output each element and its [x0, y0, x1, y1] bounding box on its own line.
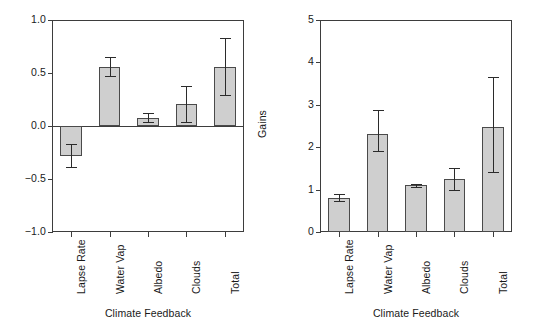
error-bar-cap-upper [488, 77, 499, 78]
error-bar-stem [148, 113, 149, 121]
error-bar-cap-lower [105, 76, 116, 77]
y-axis-tick-mark [316, 105, 321, 106]
error-bar-cap-lower [181, 122, 192, 123]
y-axis-tick-mark [48, 232, 53, 233]
error-bar-cap-upper [334, 194, 345, 195]
x-axis-title: Climate Feedback [320, 307, 512, 319]
x-axis-tick-mark [378, 232, 379, 237]
x-axis-category-label: Clouds [190, 261, 202, 294]
y-axis-tick-label: 4 [272, 55, 314, 67]
y-axis-tick-label: 0.5 [4, 66, 46, 78]
x-axis-category-label: Albedo [152, 261, 164, 294]
error-bar-cap-lower [143, 122, 154, 123]
x-axis-category-label: Total [229, 271, 241, 294]
error-bar-cap-lower [449, 190, 460, 191]
panel-feedback-factor: 1.00.50.0−0.5−1.0Feedback FactorLapse Ra… [0, 0, 268, 329]
y-axis-tick-label: 5 [272, 13, 314, 25]
error-bar-cap-lower [334, 201, 345, 202]
y-axis-tick-mark [48, 20, 53, 21]
error-bar-stem [71, 144, 72, 167]
x-axis-tick-mark [493, 232, 494, 237]
y-axis-tick-mark [316, 232, 321, 233]
x-axis-tick-mark [110, 232, 111, 237]
y-axis-tick-label: 0.0 [4, 119, 46, 131]
x-axis-category-label: Total [497, 271, 509, 294]
y-axis-tick-label: −1.0 [4, 225, 46, 237]
error-bar-cap-upper [373, 110, 384, 111]
error-bar-cap-lower [220, 95, 231, 96]
bar [405, 185, 427, 232]
x-axis-category-label: Albedo [420, 261, 432, 294]
y-axis-tick-label: −0.5 [4, 172, 46, 184]
error-bar-stem [378, 110, 379, 150]
y-axis-tick-label: 1.0 [4, 13, 46, 25]
x-axis-category-label: Lapse Rate [75, 239, 87, 294]
error-bar-cap-upper [220, 38, 231, 39]
x-axis-tick-mark [454, 232, 455, 237]
y-axis-tick-mark [48, 73, 53, 74]
panel-gains: 543210GainsLapse RateWater VapAlbedoClou… [268, 0, 536, 329]
error-bar-cap-upper [449, 168, 460, 169]
error-bar-cap-lower [66, 167, 77, 168]
error-bar-cap-upper [66, 144, 77, 145]
y-axis-tick-label: 0 [272, 225, 314, 237]
error-bar-cap-lower [411, 187, 422, 188]
error-bar-cap-lower [488, 172, 499, 173]
y-axis-tick-mark [48, 179, 53, 180]
x-axis-category-label: Water Vap [114, 245, 126, 294]
y-axis-tick-label: 2 [272, 140, 314, 152]
error-bar-stem [493, 77, 494, 172]
y-axis-title: Gains [256, 64, 268, 184]
error-bar-cap-lower [373, 151, 384, 152]
error-bar-cap-upper [143, 113, 154, 114]
x-axis-tick-mark [71, 232, 72, 237]
x-axis-tick-mark [416, 232, 417, 237]
y-axis-tick-label: 1 [272, 183, 314, 195]
x-axis-title: Climate Feedback [52, 307, 244, 319]
y-axis-tick-mark [316, 147, 321, 148]
error-bar-cap-upper [105, 57, 116, 58]
x-axis-tick-mark [148, 232, 149, 237]
error-bar-stem [339, 194, 340, 201]
bar [328, 198, 350, 232]
error-bar-stem [186, 86, 187, 122]
y-axis-tick-mark [316, 190, 321, 191]
y-axis-tick-mark [316, 20, 321, 21]
x-axis-category-label: Water Vap [382, 245, 394, 294]
x-axis-category-label: Clouds [458, 261, 470, 294]
x-axis-tick-mark [186, 232, 187, 237]
error-bar-stem [225, 38, 226, 95]
x-axis-category-label: Lapse Rate [343, 239, 355, 294]
x-axis-tick-mark [225, 232, 226, 237]
x-axis-tick-mark [339, 232, 340, 237]
figure-two-panel-bar-charts: 1.00.50.0−0.5−1.0Feedback FactorLapse Ra… [0, 0, 536, 329]
error-bar-cap-upper [411, 184, 422, 185]
error-bar-stem [110, 57, 111, 76]
error-bar-cap-upper [181, 86, 192, 87]
error-bar-stem [454, 168, 455, 190]
y-axis-tick-label: 3 [272, 98, 314, 110]
y-axis-tick-mark [316, 62, 321, 63]
